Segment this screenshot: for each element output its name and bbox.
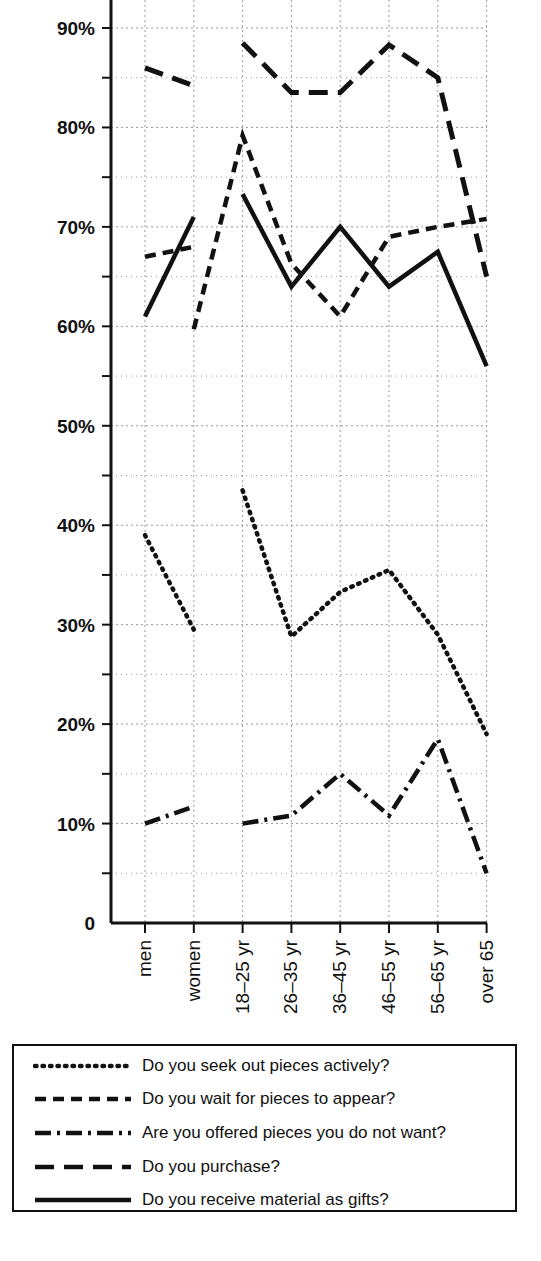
- x-axis-tick-label: 18–25 yr: [232, 939, 253, 1014]
- y-axis-tick-label: 0: [84, 913, 95, 934]
- x-axis-tick-label: 26–35 yr: [280, 939, 301, 1014]
- legend-item: Do you receive material as gifts?: [24, 1183, 515, 1217]
- series-line-dash-dot: [145, 807, 194, 824]
- x-axis-tick-label: 36–45 yr: [329, 939, 350, 1014]
- y-axis-tick-label: 20%: [57, 714, 95, 735]
- legend-item: Do you purchase?: [24, 1150, 515, 1184]
- legend-box: Do you seek out pieces actively?Do you w…: [12, 1044, 517, 1212]
- legend-item-label: Are you offered pieces you do not want?: [142, 1123, 446, 1143]
- legend-swatch-dash-dot-icon: [33, 1126, 133, 1140]
- series-line-long-dashed: [243, 43, 487, 277]
- legend-line-swatch: [24, 1160, 142, 1174]
- legend-line-swatch: [24, 1092, 142, 1106]
- legend-line-swatch: [24, 1193, 142, 1207]
- legend-swatch-solid-icon: [33, 1193, 133, 1207]
- y-axis-tick-label: 90%: [57, 18, 95, 39]
- series-line-dotted: [243, 490, 487, 734]
- axes: [111, 0, 487, 923]
- legend-list: Do you seek out pieces actively?Do you w…: [14, 1046, 515, 1217]
- legend-item-label: Do you wait for pieces to appear?: [142, 1089, 395, 1109]
- x-axis-tick-label: men: [134, 940, 155, 977]
- chart-container: 010%20%30%40%50%60%70%80%90% menwomen18–…: [0, 0, 541, 1030]
- series-line-solid: [145, 217, 194, 317]
- legend-line-swatch: [24, 1126, 142, 1140]
- grid-vertical-lines: [145, 0, 487, 923]
- legend-swatch-dotted-icon: [33, 1059, 133, 1073]
- legend-container: Do you seek out pieces actively?Do you w…: [0, 1030, 541, 1261]
- y-axis-tick-label: 80%: [57, 117, 95, 138]
- legend-item-label: Do you purchase?: [142, 1157, 280, 1177]
- legend-item: Are you offered pieces you do not want?: [24, 1116, 515, 1150]
- legend-swatch-long-dashed-icon: [33, 1160, 133, 1174]
- y-axis-tick-labels: 010%20%30%40%50%60%70%80%90%: [57, 18, 95, 934]
- series-line-long-dashed: [145, 68, 194, 86]
- y-axis-tick-label: 40%: [57, 515, 95, 536]
- x-axis-tick-label: women: [183, 940, 204, 1002]
- x-axis-tick-label: 56–65 yr: [427, 939, 448, 1014]
- series-line-dash-dot: [243, 739, 487, 873]
- y-axis-tick-label: 10%: [57, 814, 95, 835]
- series-line-dotted: [145, 535, 194, 629]
- legend-swatch-short-dashed-icon: [33, 1092, 133, 1106]
- x-axis-tick-label: over 65: [476, 940, 497, 1003]
- legend-item: Do you wait for pieces to appear?: [24, 1083, 515, 1117]
- legend-item-label: Do you receive material as gifts?: [142, 1190, 389, 1210]
- legend-item: Do you seek out pieces actively?: [24, 1049, 515, 1083]
- legend-item-label: Do you seek out pieces actively?: [142, 1056, 390, 1076]
- data-series-layer: [145, 43, 487, 873]
- y-axis-tick-label: 60%: [57, 316, 95, 337]
- x-axis-tick-label: 46–55 yr: [378, 939, 399, 1014]
- series-line-short-dashed: [145, 247, 194, 257]
- legend-line-swatch: [24, 1059, 142, 1073]
- y-axis-tick-label: 30%: [57, 615, 95, 636]
- grid-horizontal-lines: [111, 28, 487, 824]
- x-axis-tick-labels: menwomen18–25 yr26–35 yr36–45 yr46–55 yr…: [134, 939, 497, 1014]
- y-axis-tick-label: 50%: [57, 416, 95, 437]
- y-axis-tick-label: 70%: [57, 217, 95, 238]
- line-chart: 010%20%30%40%50%60%70%80%90% menwomen18–…: [0, 0, 541, 1030]
